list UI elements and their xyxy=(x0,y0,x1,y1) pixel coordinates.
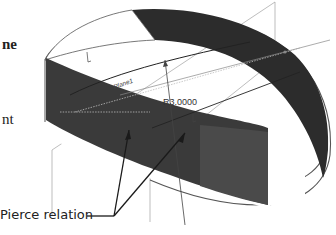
radius-dimension: R3.0000 xyxy=(163,97,197,107)
sweep-diagram xyxy=(0,0,336,235)
pierce-relation-callout: Pierce relation xyxy=(0,207,93,222)
